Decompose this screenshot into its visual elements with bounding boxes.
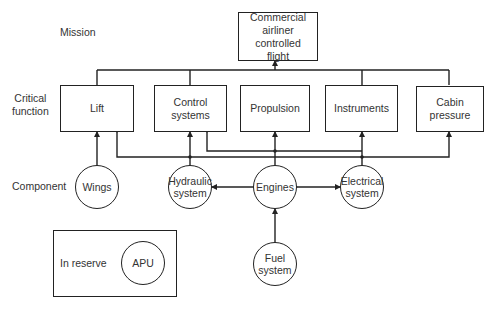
row-label-critical-function: Critical function xyxy=(12,92,49,118)
row-label-component: Component xyxy=(12,180,66,193)
component-apu: APU xyxy=(121,241,165,285)
function-box-instruments: Instruments xyxy=(325,85,398,132)
function-box-control-systems: Control systems xyxy=(154,85,227,132)
function-box-propulsion: Propulsion xyxy=(240,85,310,132)
component-hydraulic-system: Hydraulic system xyxy=(168,165,212,209)
component-fuel-system: Fuel system xyxy=(253,242,297,286)
row-label-mission: Mission xyxy=(60,26,96,39)
mission-box: Commercial airliner controlled flight xyxy=(238,12,318,61)
reserve-label: In reserve xyxy=(60,257,107,270)
component-wings: Wings xyxy=(75,165,119,209)
component-engines: Engines xyxy=(253,165,297,209)
function-box-lift: Lift xyxy=(60,85,134,132)
component-electrical-system: Electrical system xyxy=(340,165,384,209)
function-box-cabin-pressure: Cabin pressure xyxy=(416,86,484,132)
